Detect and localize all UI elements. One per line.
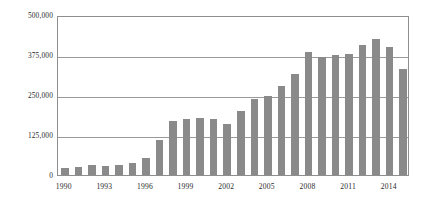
x-axis: 199019931996199920022005200820112014 <box>0 182 432 198</box>
y-tick-label: 125,000 <box>0 132 53 140</box>
bar <box>88 165 96 175</box>
bar <box>237 111 245 175</box>
bar <box>115 165 123 175</box>
y-axis: 0125,000250,000375,000500,000 <box>0 0 53 208</box>
x-tick-label: 1996 <box>137 182 153 192</box>
y-tick-label: 250,000 <box>0 92 53 100</box>
bar-chart: 0125,000250,000375,000500,000 1990199319… <box>0 0 432 208</box>
x-tick-label: 2005 <box>259 182 275 192</box>
bar <box>332 55 340 175</box>
x-tick-label: 1999 <box>178 182 194 192</box>
bar <box>264 96 272 175</box>
x-tick-label: 1993 <box>96 182 112 192</box>
x-tick-label: 1990 <box>56 182 72 192</box>
x-tick-label: 2014 <box>381 182 397 192</box>
bar <box>129 163 137 175</box>
bar <box>291 74 299 175</box>
bar <box>372 39 380 175</box>
y-tick-label: 0 <box>0 172 53 180</box>
plot-area <box>57 16 409 176</box>
bar <box>359 45 367 175</box>
bar <box>142 158 150 175</box>
bar <box>210 119 218 175</box>
x-tick-label: 2008 <box>299 182 315 192</box>
y-tick-label: 375,000 <box>0 52 53 60</box>
bar <box>169 121 177 175</box>
bar <box>305 52 313 175</box>
bar <box>318 57 326 175</box>
bar <box>278 86 286 175</box>
bar <box>345 54 353 175</box>
bar <box>102 166 110 175</box>
bar <box>196 118 204 175</box>
bar <box>386 47 394 175</box>
bar <box>61 168 69 175</box>
x-tick-label: 2011 <box>340 182 356 192</box>
bar <box>223 124 231 175</box>
bar <box>75 167 83 175</box>
y-tick-label: 500,000 <box>0 12 53 20</box>
bar <box>156 140 164 175</box>
bar <box>399 69 407 175</box>
bar <box>251 99 259 175</box>
bars-layer <box>58 17 408 175</box>
x-tick-label: 2002 <box>218 182 234 192</box>
bar <box>183 119 191 175</box>
